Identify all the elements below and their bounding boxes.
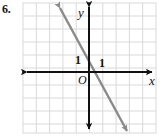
graph-figure: 6. [0, 0, 168, 140]
y-axis-tick-label-1: 1 [75, 53, 81, 67]
origin-label: O [78, 73, 87, 87]
x-axis-label: x [148, 73, 155, 88]
coordinate-graph: y x O 1 1 [0, 0, 168, 140]
y-axis-label: y [76, 5, 84, 20]
x-axis-tick-label-1: 1 [99, 56, 105, 70]
